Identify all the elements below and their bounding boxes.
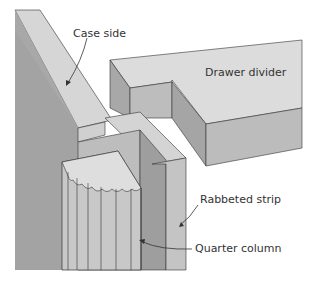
label-drawer-divider: Drawer divider xyxy=(205,66,286,79)
label-case-side: Case side xyxy=(73,27,126,40)
label-rabbeted-strip: Rabbeted strip xyxy=(200,193,281,206)
joinery-diagram: Case side Drawer divider Rabbeted strip … xyxy=(0,0,312,288)
quarter-column xyxy=(62,151,141,270)
label-quarter-column: Quarter column xyxy=(195,242,282,255)
